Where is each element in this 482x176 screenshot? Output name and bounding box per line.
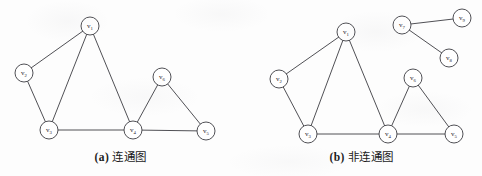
graph-edge-v2-v3 — [28, 81, 46, 122]
edge-layer — [28, 31, 201, 131]
graph-edge-v7-v9 — [411, 19, 453, 24]
graph-node-v1: v1 — [81, 17, 99, 35]
caption-b-tag: (b) — [330, 151, 345, 163]
node-layer: v1v2v3v4v5v6v7v8v9 — [270, 9, 471, 143]
caption-b: (b)非连通图 — [241, 148, 482, 164]
caption-a-text: 连通图 — [112, 150, 146, 164]
graph-node-v4: v4 — [124, 121, 142, 139]
caption-a-tag: (a) — [95, 151, 110, 163]
graph-node-v5: v5 — [445, 125, 463, 143]
edge-layer — [283, 19, 453, 134]
caption-b-text: 非连通图 — [348, 150, 394, 164]
graph-node-v3: v3 — [299, 125, 317, 143]
graph-node-v6: v6 — [404, 69, 422, 87]
graph-node-v1: v1 — [337, 23, 355, 41]
node-layer: v1v2v3v4v5v6 — [15, 17, 215, 140]
figure-panel-a: v1v2v3v4v5v6 (a)连通图 — [0, 0, 241, 176]
graph-edge-v6-v5 — [168, 84, 201, 124]
graph-node-v3: v3 — [40, 121, 58, 139]
graph-node-v6: v6 — [153, 68, 171, 86]
graph-edge-v1-v4 — [93, 34, 129, 121]
graph-node-v8: v8 — [440, 49, 458, 67]
graph-node-v7: v7 — [393, 16, 411, 34]
graph-edge-v1-v2 — [286, 37, 338, 74]
caption-a: (a)连通图 — [0, 148, 241, 164]
graph-edge-v6-v5 — [418, 85, 448, 126]
graph-edge-v1-v3 — [52, 34, 86, 121]
figure-panel-b: v1v2v3v4v5v6v7v8v9 (b)非连通图 — [241, 0, 482, 176]
graph-edge-v4-v6 — [137, 85, 157, 122]
graph-node-v5: v5 — [197, 122, 215, 140]
graph-edge-v4-v5 — [142, 130, 197, 131]
graph-node-v9: v9 — [453, 9, 471, 27]
graph-edge-v4-v6 — [392, 86, 410, 126]
graph-edge-v1-v4 — [349, 40, 384, 125]
graph-edge-v1-v2 — [31, 31, 82, 68]
graph-edge-v2-v3 — [283, 87, 304, 126]
graph-node-v4: v4 — [379, 125, 397, 143]
graph-edge-v7-v8 — [409, 30, 441, 53]
graph-node-v2: v2 — [15, 64, 33, 82]
graph-node-v2: v2 — [270, 70, 288, 88]
